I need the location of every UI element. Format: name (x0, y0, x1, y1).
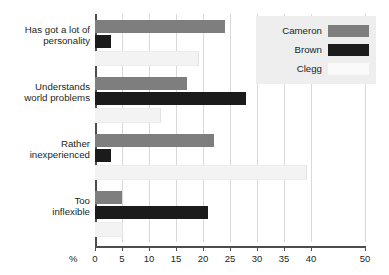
x-tick-label: 35 (272, 253, 296, 264)
x-tick (176, 247, 177, 251)
x-tick-label: 15 (164, 253, 188, 264)
x-tick (284, 247, 285, 251)
legend-item-cameron: Cameron (261, 21, 369, 40)
bar-clegg (95, 108, 161, 123)
x-tick (149, 247, 150, 251)
legend-label-clegg: Clegg (297, 63, 322, 74)
x-tick (122, 247, 123, 251)
category-label: Has got a lot ofpersonality (0, 24, 90, 47)
bar-clegg (95, 222, 123, 237)
bar-cameron (95, 191, 122, 204)
x-tick-label: 30 (245, 253, 269, 264)
x-tick-label: 10 (137, 253, 161, 264)
gridline (230, 14, 231, 242)
x-axis-unit-label: % (69, 253, 77, 264)
x-tick-label: 0 (83, 253, 107, 264)
category-label: Understandsworld problems (0, 81, 90, 104)
x-tick-label: 50 (353, 253, 377, 264)
x-tick-label: 40 (299, 253, 323, 264)
bar-clegg (95, 165, 307, 180)
x-tick (95, 247, 96, 251)
bar-cameron (95, 20, 225, 33)
bar-brown (95, 206, 208, 219)
x-tick-label: 20 (191, 253, 215, 264)
x-tick (311, 247, 312, 251)
bar-brown (95, 149, 111, 162)
bar-chart: 051015202530354050 Has got a lot ofperso… (0, 0, 389, 275)
bar-brown (95, 35, 111, 48)
legend-swatch-clegg (328, 63, 369, 75)
x-tick (257, 247, 258, 251)
x-tick (203, 247, 204, 251)
legend-swatch-cameron (328, 25, 369, 37)
legend-item-clegg: Clegg (261, 59, 369, 78)
chart-legend: Cameron Brown Clegg (256, 16, 376, 84)
x-tick (365, 247, 366, 251)
legend-item-brown: Brown (261, 40, 369, 59)
x-tick (230, 247, 231, 251)
category-label: Tooinflexible (0, 195, 90, 218)
legend-label-cameron: Cameron (282, 25, 322, 36)
bar-cameron (95, 77, 187, 90)
bar-cameron (95, 134, 214, 147)
x-tick-label: 5 (110, 253, 134, 264)
x-tick-label: 25 (218, 253, 242, 264)
bar-brown (95, 92, 246, 105)
legend-swatch-brown (328, 44, 369, 56)
legend-label-brown: Brown (295, 44, 322, 55)
category-label: Ratherinexperienced (0, 138, 90, 161)
bar-clegg (95, 51, 199, 66)
